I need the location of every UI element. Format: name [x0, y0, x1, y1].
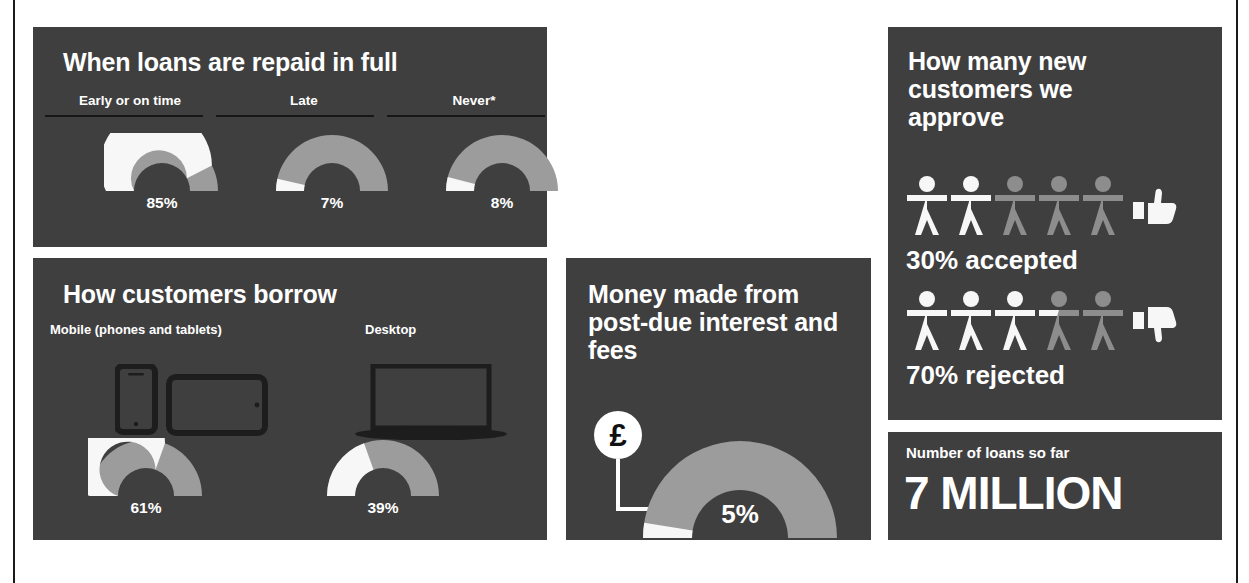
- gauge-value-early: 85%: [104, 194, 220, 212]
- person-icon: [994, 175, 1036, 237]
- gauge-never: 8%: [444, 133, 560, 193]
- person-icon: [906, 290, 948, 352]
- thumbs-down-icon: [1132, 300, 1178, 346]
- gauge-value-money: 5%: [640, 499, 840, 530]
- page-border-right: [1236, 0, 1238, 583]
- person-icon: [1082, 290, 1124, 352]
- laptop-icon: [351, 364, 511, 444]
- column-label-early: Early or on time: [45, 93, 215, 108]
- caption-rejected: 70% rejected: [906, 360, 1065, 391]
- column-rule-early: [45, 115, 203, 117]
- gauge-mobile-arc: [88, 438, 204, 498]
- column-rule-never: [387, 115, 545, 117]
- phone-tablet-icon: [115, 364, 285, 440]
- gauge-desktop: 39%: [325, 438, 441, 498]
- gauge-value-desktop: 39%: [325, 499, 441, 517]
- pound-coin-icon: £: [594, 411, 642, 459]
- person-icon: [1038, 175, 1080, 237]
- column-label-late: Late: [219, 93, 389, 108]
- gauge-late: 7%: [274, 133, 390, 193]
- device-label-mobile: Mobile (phones and tablets): [50, 322, 222, 337]
- gauge-early-arc: [104, 133, 220, 193]
- gauge-value-mobile: 61%: [88, 499, 204, 517]
- person-icon: [950, 290, 992, 352]
- person-icon: [1082, 175, 1124, 237]
- person-icon: [906, 175, 948, 237]
- panel-approve-title: How many new customers we approve: [908, 47, 1158, 131]
- infographic-stage: When loans are repaid in full Early or o…: [0, 0, 1249, 583]
- person-icon: [950, 175, 992, 237]
- panel-loans-so-far: Number of loans so far 7 MILLION: [888, 432, 1222, 540]
- pound-symbol: £: [609, 420, 626, 451]
- page-border-left: [13, 0, 15, 583]
- pictogram-row-accepted: [906, 175, 1178, 237]
- gauge-desktop-arc: [325, 438, 441, 498]
- gauge-never-arc: [444, 133, 560, 193]
- person-icon: [1038, 290, 1080, 352]
- pictogram-row-rejected: [906, 290, 1178, 352]
- panel-borrow-title: How customers borrow: [63, 280, 503, 308]
- gauge-value-late: 7%: [274, 194, 390, 212]
- column-rule-late: [216, 115, 374, 117]
- thumbs-up-icon: [1132, 185, 1178, 231]
- caption-accepted: 30% accepted: [906, 245, 1078, 276]
- loans-so-far-label: Number of loans so far: [906, 444, 1069, 461]
- device-label-desktop: Desktop: [365, 322, 416, 337]
- person-icon: [994, 290, 1036, 352]
- leader-line-vertical: [616, 459, 620, 511]
- gauge-post-due-interest: 5%: [640, 437, 840, 541]
- column-label-never: Never*: [389, 93, 559, 108]
- gauge-mobile: 61%: [88, 438, 204, 498]
- panel-approve: How many new customers we approve: [888, 27, 1222, 420]
- gauge-late-arc: [274, 133, 390, 193]
- gauge-early-or-on-time: 85%: [104, 133, 220, 193]
- loans-so-far-value: 7 MILLION: [904, 466, 1122, 520]
- panel-repaid-title: When loans are repaid in full: [63, 48, 523, 76]
- panel-money-title: Money made from post-due interest and fe…: [588, 280, 856, 364]
- gauge-value-never: 8%: [444, 194, 560, 212]
